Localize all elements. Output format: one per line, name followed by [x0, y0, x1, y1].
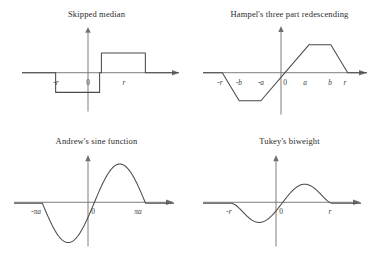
ticklabel-a: a: [303, 78, 307, 87]
svg-andrews-sine: -πa 0 πa: [0, 128, 193, 255]
plot-tukeys-biweight: -r 0 r: [193, 128, 386, 255]
svg-tukeys-biweight: -r 0 r: [193, 128, 386, 255]
ticklabel-zero: 0: [86, 78, 90, 87]
ticklabel-zero: 0: [279, 207, 283, 216]
ticklabel-zero: 0: [283, 78, 287, 87]
axes-andrews-sine: [14, 155, 174, 246]
plot-andrews-sine: -πa 0 πa: [0, 128, 193, 255]
axes-hampel: [203, 26, 367, 115]
figure-grid: Skipped median -r 0 r Hamp: [0, 0, 386, 255]
ticklabel-zero: 0: [91, 207, 95, 216]
ticklabel-r: r: [329, 207, 332, 216]
ticklabel-pi-a: πa: [134, 207, 142, 216]
ticklabel-neg-pi-a: -πa: [31, 207, 41, 216]
svg-skipped-median: -r 0 r: [0, 0, 193, 128]
axes-skipped-median: [22, 27, 179, 112]
ticklabel-b: b: [328, 78, 332, 87]
plot-hampel: -r -b -a 0 a b r: [193, 0, 386, 128]
panel-skipped-median: Skipped median -r 0 r: [0, 0, 193, 128]
ticklabel-neg-r: -r: [217, 78, 222, 87]
ticklabels-hampel: -r -b -a 0 a b r: [217, 78, 346, 87]
ticklabel-neg-b: -b: [236, 78, 242, 87]
axes-tukeys-biweight: [203, 155, 361, 246]
panel-tukeys-biweight: Tukey's biweight -r 0 r: [193, 128, 386, 255]
ticklabels-skipped-median: -r 0 r: [53, 78, 125, 87]
panel-hampel: Hampel's three part redescending -r -b -…: [193, 0, 386, 128]
panel-andrews-sine: Andrew's sine function -πa 0 πa: [0, 128, 193, 255]
ticklabel-neg-a: -a: [258, 78, 264, 87]
svg-hampel: -r -b -a 0 a b r: [193, 0, 386, 128]
ticklabel-neg-r: -r: [53, 78, 58, 87]
ticklabel-r: r: [123, 78, 126, 87]
curve-skipped-median: [22, 53, 179, 92]
ticklabel-r: r: [344, 78, 347, 87]
plot-skipped-median: -r 0 r: [0, 0, 193, 128]
ticklabel-neg-r: -r: [226, 207, 231, 216]
curve-andrews-sine: [14, 164, 174, 243]
curve-tukeys-biweight: [203, 184, 361, 222]
